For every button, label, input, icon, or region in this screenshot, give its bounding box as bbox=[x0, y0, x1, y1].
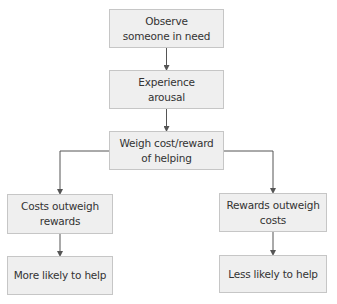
node-less: Less likely to help bbox=[219, 255, 327, 293]
node-weigh: Weigh cost/reward of helping bbox=[109, 131, 224, 170]
node-observe: Observe someone in need bbox=[109, 9, 224, 48]
node-arousal: Experience arousal bbox=[109, 70, 224, 109]
node-costs-label: Costs outweigh rewards bbox=[21, 199, 99, 229]
node-costs: Costs outweigh rewards bbox=[7, 194, 113, 234]
edge-weigh-costs bbox=[60, 151, 109, 192]
node-less-label: Less likely to help bbox=[228, 267, 318, 282]
node-more: More likely to help bbox=[7, 256, 113, 295]
node-observe-label: Observe someone in need bbox=[123, 14, 211, 44]
node-rewards: Rewards outweigh costs bbox=[219, 193, 327, 232]
node-rewards-label: Rewards outweigh costs bbox=[226, 198, 319, 228]
edge-weigh-rewards bbox=[224, 151, 273, 191]
node-more-label: More likely to help bbox=[14, 268, 107, 283]
node-arousal-label: Experience arousal bbox=[138, 75, 195, 105]
node-weigh-label: Weigh cost/reward of helping bbox=[119, 136, 213, 166]
